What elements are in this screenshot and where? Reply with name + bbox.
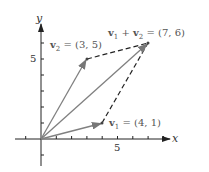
v1-label: v1 = (4, 1) [109, 118, 161, 131]
y-axis-label: y [36, 13, 42, 24]
x-tick-label-5: 5 [114, 143, 120, 153]
point-v1 [101, 122, 104, 125]
dashed-edge-v1-to-sum [102, 43, 148, 123]
x-axis-label: x [172, 133, 178, 144]
vector-diagram [0, 0, 209, 172]
v2-label: v2 = (3, 5) [50, 40, 102, 53]
sum-label: v1 + v2 = (7, 6) [108, 28, 185, 41]
point-sum [147, 42, 150, 45]
vector-v2 [41, 60, 86, 139]
point-v2 [86, 58, 89, 61]
y-tick-label-5: 5 [30, 54, 36, 64]
